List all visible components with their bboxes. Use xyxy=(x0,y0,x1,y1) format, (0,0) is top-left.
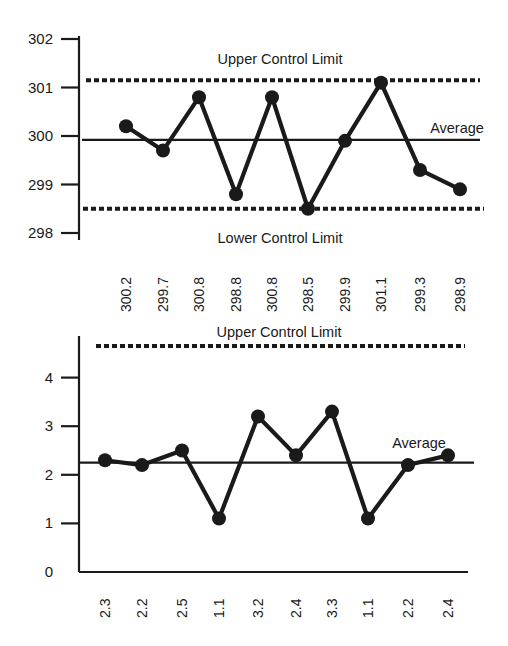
y-tick-label: 298 xyxy=(28,224,53,241)
data-point xyxy=(251,409,265,423)
y-tick-label: 302 xyxy=(28,30,53,47)
control-charts: 298299300301302Upper Control LimitAverag… xyxy=(0,0,508,646)
data-point xyxy=(156,144,170,158)
x-category-label: 2.2 xyxy=(400,598,416,618)
x-category-label: 2.2 xyxy=(134,598,150,618)
average-label: Average xyxy=(430,120,484,136)
x-category-label: 301.1 xyxy=(373,277,389,312)
x-category-label: 1.1 xyxy=(360,598,376,618)
y-tick-label: 0 xyxy=(45,563,53,580)
data-point xyxy=(453,182,467,196)
data-point xyxy=(135,458,149,472)
x-category-label: 298.5 xyxy=(300,277,316,312)
x-category-label: 299.3 xyxy=(412,277,428,312)
x-category-label: 300.8 xyxy=(264,277,280,312)
x-category-label: 2.3 xyxy=(97,598,113,618)
y-tick-label: 3 xyxy=(45,417,53,434)
upper-control-limit-label: Upper Control Limit xyxy=(217,324,342,340)
x-category-label: 299.9 xyxy=(337,277,353,312)
x-category-label: 298.8 xyxy=(228,277,244,312)
data-point xyxy=(265,90,279,104)
range-control-chart: 01234Upper Control LimitAverage2.32.22.5… xyxy=(45,324,474,618)
x-category-label: 2.5 xyxy=(174,598,190,618)
x-category-label: 300.8 xyxy=(191,277,207,312)
data-point xyxy=(441,448,455,462)
data-point xyxy=(374,76,388,90)
x-category-label: 299.7 xyxy=(155,277,171,312)
x-category-label: 1.1 xyxy=(211,598,227,618)
data-point xyxy=(361,512,375,526)
data-point xyxy=(192,90,206,104)
data-point xyxy=(338,134,352,148)
data-point xyxy=(229,187,243,201)
x-category-label: 3.3 xyxy=(324,598,340,618)
data-point xyxy=(175,444,189,458)
y-tick-label: 4 xyxy=(45,369,53,386)
data-point xyxy=(325,405,339,419)
data-point xyxy=(119,119,133,133)
x-category-label: 300.2 xyxy=(118,277,134,312)
x-category-label: 2.4 xyxy=(440,598,456,618)
average-label: Average xyxy=(392,435,446,451)
data-point xyxy=(289,448,303,462)
lower-control-limit-label: Lower Control Limit xyxy=(218,230,343,246)
y-tick-label: 300 xyxy=(28,127,53,144)
x-bar-control-chart: 298299300301302Upper Control LimitAverag… xyxy=(28,30,484,312)
data-point xyxy=(98,453,112,467)
x-category-label: 3.2 xyxy=(250,598,266,618)
data-series-line xyxy=(105,412,448,519)
data-point xyxy=(301,202,315,216)
data-point xyxy=(212,512,226,526)
y-tick-label: 301 xyxy=(28,79,53,96)
y-tick-label: 1 xyxy=(45,514,53,531)
y-tick-label: 2 xyxy=(45,466,53,483)
y-tick-label: 299 xyxy=(28,176,53,193)
data-series-line xyxy=(126,83,460,209)
upper-control-limit-label: Upper Control Limit xyxy=(218,51,343,67)
data-point xyxy=(413,163,427,177)
x-category-label: 298.9 xyxy=(452,277,468,312)
data-point xyxy=(401,458,415,472)
x-category-label: 2.4 xyxy=(288,598,304,618)
